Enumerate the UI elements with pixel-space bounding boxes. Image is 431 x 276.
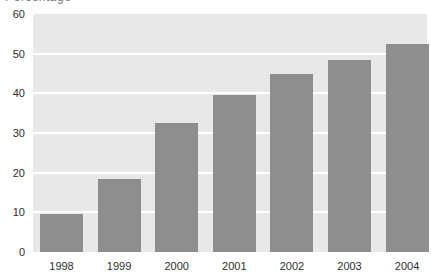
y-tick-label-20: 20 xyxy=(0,167,25,180)
gridline-50 xyxy=(33,53,427,55)
x-tick-label-1998: 1998 xyxy=(49,260,73,273)
bar-1998 xyxy=(40,214,83,252)
x-tick-label-2004: 2004 xyxy=(395,260,419,273)
cropped-title-fragment: Percentage xyxy=(5,0,145,4)
y-tick-label-50: 50 xyxy=(0,48,25,61)
y-tick-label-10: 10 xyxy=(0,206,25,219)
y-tick-label-40: 40 xyxy=(0,87,25,100)
bar-2004 xyxy=(386,44,429,252)
x-tick-label-2002: 2002 xyxy=(280,260,304,273)
x-tick-label-1999: 1999 xyxy=(107,260,131,273)
bar-2002 xyxy=(270,74,313,253)
x-tick-label-2003: 2003 xyxy=(337,260,361,273)
y-tick-label-60: 60 xyxy=(0,8,25,21)
bar-2003 xyxy=(328,60,371,252)
x-tick-label-2001: 2001 xyxy=(222,260,246,273)
plot-area xyxy=(33,14,427,252)
bar-2000 xyxy=(155,123,198,252)
y-tick-label-0: 0 xyxy=(0,246,25,259)
bar-chart-figure: Percentage 0102030405060 199819992000200… xyxy=(0,0,431,276)
bar-2001 xyxy=(213,95,256,252)
x-tick-label-2000: 2000 xyxy=(164,260,188,273)
cropped-title-text: Percentage xyxy=(5,0,145,4)
bar-1999 xyxy=(98,179,141,252)
y-tick-label-30: 30 xyxy=(0,127,25,140)
